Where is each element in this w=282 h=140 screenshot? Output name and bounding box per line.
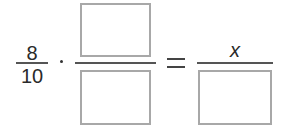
right-numerator-variable: x (220, 40, 250, 60)
multiply-dot-icon (60, 60, 63, 63)
equals-bottom-bar (167, 66, 185, 68)
left-denominator: 10 (16, 66, 48, 86)
middle-fraction-bar (75, 62, 156, 64)
middle-numerator-box[interactable] (80, 3, 151, 57)
right-fraction-bar (197, 62, 273, 64)
left-numerator: 8 (18, 43, 46, 63)
middle-denominator-box[interactable] (80, 70, 151, 125)
right-denominator-box[interactable] (198, 70, 272, 125)
equals-top-bar (167, 58, 185, 60)
left-fraction-bar (16, 62, 48, 64)
